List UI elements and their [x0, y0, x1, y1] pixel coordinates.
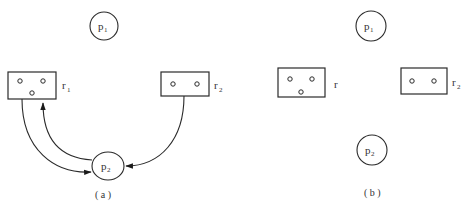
process-subscript: 2 [107, 166, 111, 174]
resource-node-r2: r 2 [161, 72, 223, 96]
process-node-p2: p 2 [92, 152, 124, 180]
process-node-p1: p 1 [90, 12, 118, 40]
resource-instance-dot [41, 79, 45, 83]
resource-label: r [334, 78, 338, 90]
resource-instance-dot [18, 79, 22, 83]
process-node-p2: p 2 [357, 135, 387, 165]
resource-instance-dot [410, 79, 414, 83]
resource-label: r [214, 79, 218, 91]
process-subscript: 1 [370, 26, 374, 34]
resource-subscript: 2 [457, 83, 461, 91]
edge-r1-to-p2 [22, 99, 91, 172]
resource-allocation-diagram: p 1 r 1 r 2 p 2 ( [0, 0, 465, 207]
resource-instance-dot [310, 77, 314, 81]
process-subscript: 1 [104, 26, 108, 34]
panel-caption: ( b ) [364, 187, 381, 199]
resource-node-r1: r 1 [8, 72, 71, 99]
resource-node-r2: r 2 [401, 68, 461, 94]
process-subscript: 2 [371, 150, 375, 158]
resource-subscript: 2 [219, 86, 223, 94]
resource-instance-dot [299, 90, 303, 94]
panel-a: p 1 r 1 r 2 p 2 ( [8, 12, 223, 201]
process-node-p1: p 1 [356, 11, 386, 41]
resource-instance-dot [432, 79, 436, 83]
resource-instance-dot [30, 91, 34, 95]
panel-caption: ( a ) [95, 189, 111, 201]
resource-node-r: r [278, 68, 338, 97]
edge-r2-to-p2 [126, 96, 184, 166]
resource-instance-dot [171, 82, 175, 86]
resource-label: r [62, 79, 66, 91]
resource-label: r [452, 76, 456, 88]
resource-instance-dot [288, 77, 292, 81]
resource-instance-dot [195, 82, 199, 86]
edge-p2-to-r1 [43, 103, 92, 160]
resource-subscript: 1 [67, 86, 71, 94]
panel-b: p 1 r r 2 p 2 ( b ) [278, 11, 461, 199]
